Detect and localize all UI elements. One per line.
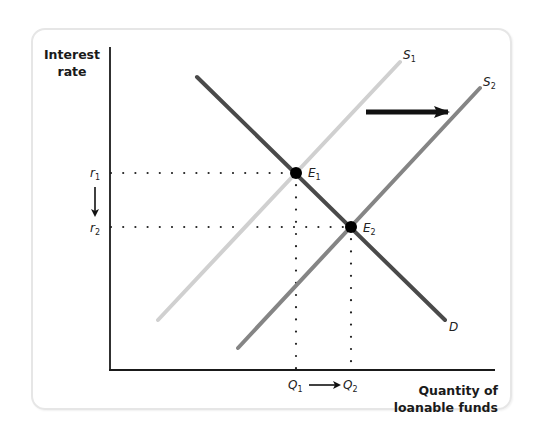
q1-tick-sub: 1	[297, 385, 302, 394]
e2-label: E2	[363, 221, 376, 240]
e1-label-text: E	[308, 166, 316, 180]
q1-tick-label: Q1	[288, 378, 303, 397]
q2-tick-sub: 2	[352, 385, 357, 394]
x-axis-title: Quantity of loanable funds	[386, 382, 498, 416]
s2-label-sub: 2	[491, 82, 496, 91]
e1-label: E1	[308, 166, 321, 185]
r1-tick-sub: 1	[95, 173, 100, 182]
y-axis-title-line1: Interest	[40, 46, 104, 63]
r2-tick-label: r2	[90, 221, 100, 240]
e2-label-sub: 2	[371, 228, 376, 237]
s1-label: S1	[403, 48, 416, 67]
x-axis-title-line1: Quantity of	[386, 382, 498, 399]
s2-label-text: S	[483, 75, 491, 89]
r2-tick-sub: 2	[95, 228, 100, 237]
r1-tick-label: r1	[90, 166, 100, 185]
e1-label-sub: 1	[316, 173, 321, 182]
y-axis-title: Interest rate	[40, 46, 104, 80]
equilibrium-point-e2	[345, 221, 357, 233]
e2-label-text: E	[363, 221, 371, 235]
d-label-text: D	[449, 320, 458, 334]
d-label: D	[449, 320, 458, 334]
x-axis-title-line2: loanable funds	[386, 399, 498, 416]
guide-lines	[111, 173, 351, 369]
supply-curve-s1	[158, 62, 400, 320]
supply-curve-s2	[238, 88, 480, 348]
y-axis-title-line2: rate	[40, 63, 104, 80]
q2-tick-label: Q2	[343, 378, 358, 397]
s1-label-sub: 1	[411, 55, 416, 64]
equilibrium-point-e1	[290, 167, 302, 179]
s1-label-text: S	[403, 48, 411, 62]
s2-label: S2	[483, 75, 496, 94]
